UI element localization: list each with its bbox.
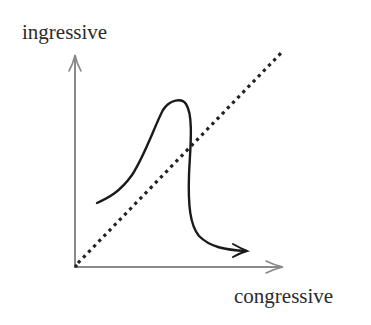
diagram: ingressive congressive bbox=[0, 0, 371, 325]
reference-diagonal-line bbox=[78, 51, 283, 263]
y-axis bbox=[69, 55, 81, 267]
origin-point bbox=[74, 264, 78, 268]
x-axis bbox=[74, 261, 283, 273]
x-axis-label: congressive bbox=[234, 286, 333, 307]
response-curve bbox=[97, 100, 246, 251]
y-axis-label: ingressive bbox=[22, 22, 107, 43]
diagram-canvas bbox=[0, 0, 371, 325]
